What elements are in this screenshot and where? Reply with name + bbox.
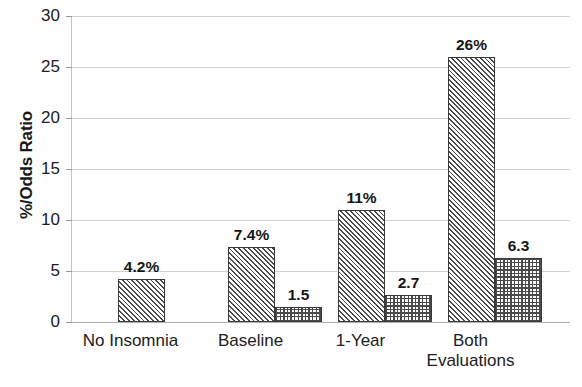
tick-mark-0: [66, 322, 72, 323]
bar-no-insomnia-percent: [118, 279, 165, 322]
gridline-0-baseline: [72, 322, 570, 323]
y-tick-5: 5: [20, 262, 60, 279]
bar-label-baseline-percent: 7.4%: [224, 227, 279, 243]
tick-mark-20: [66, 118, 72, 119]
y-tick-15: 15: [20, 160, 60, 177]
tick-mark-25: [66, 67, 72, 68]
x-category-label-both-evaluations: Both Evaluations: [398, 331, 543, 370]
bar-chart: %/Odds Ratio 30 25 20 15 10 5 0 4.2% 7.4…: [0, 0, 582, 387]
gridline-10: [72, 220, 570, 221]
tick-mark-15: [66, 169, 72, 170]
bar-label-baseline-odds-ratio: 1.5: [275, 287, 322, 303]
y-tick-0: 0: [20, 313, 60, 330]
tick-mark-30: [66, 16, 72, 17]
gridline-15: [72, 169, 570, 170]
gridline-25: [72, 67, 570, 68]
bar-1-year-percent: [338, 210, 385, 322]
y-tick-25: 25: [20, 58, 60, 75]
bar-baseline-odds-ratio: [275, 307, 322, 322]
bar-label-1-year-odds-ratio: 2.7: [385, 275, 432, 291]
bar-both-evaluations-percent: [448, 57, 495, 322]
bar-label-no-insomnia-percent: 4.2%: [118, 259, 165, 275]
y-tick-20: 20: [20, 109, 60, 126]
bar-baseline-percent: [228, 247, 275, 323]
tick-mark-10: [66, 220, 72, 221]
bar-label-both-evaluations-odds-ratio: 6.3: [495, 238, 542, 254]
tick-mark-5: [66, 271, 72, 272]
y-tick-10: 10: [20, 211, 60, 228]
bar-label-both-evaluations-percent: 26%: [448, 37, 495, 53]
y-tick-30: 30: [20, 7, 60, 24]
plot-area: 4.2% 7.4% 1.5 11% 2.7 26% 6.3: [72, 16, 570, 322]
bar-both-evaluations-odds-ratio: [495, 258, 542, 322]
bar-label-1-year-percent: 11%: [338, 190, 385, 206]
gridline-30: [72, 16, 570, 17]
bar-1-year-odds-ratio: [385, 295, 432, 323]
gridline-20: [72, 118, 570, 119]
y-axis-tick-labels: 30 25 20 15 10 5 0: [18, 0, 60, 387]
